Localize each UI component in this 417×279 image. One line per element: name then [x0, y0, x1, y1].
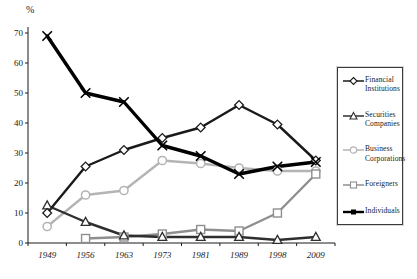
legend-item-business-corporations: Business Corporations — [342, 144, 399, 163]
legend-box: Financial InstitutionsSecurities Compani… — [337, 67, 403, 225]
series-business-corporations-circle-marker-icon — [273, 167, 281, 175]
legend-key-business-corporations — [342, 145, 365, 155]
series-business-corporations-circle-marker-icon — [81, 191, 89, 199]
legend-label-individuals: Individuals — [365, 206, 400, 215]
y-axis-tick-label: 60 — [14, 58, 24, 68]
y-axis-tick-label: 40 — [14, 118, 24, 128]
y-axis-tick-label: 50 — [14, 88, 24, 98]
x-axis-tick-label: 1949 — [38, 250, 57, 260]
x-axis-tick-label: 1956 — [77, 250, 96, 260]
legend-item-foreigners: Foreigners — [342, 179, 399, 190]
series-line-individuals — [47, 36, 316, 174]
x-axis-tick-label: 1989 — [230, 250, 249, 260]
y-axis-tick-label: 30 — [14, 148, 24, 158]
filled-square-marker-icon — [351, 210, 356, 215]
legend-key-securities-companies — [342, 111, 365, 121]
series-foreigners-square-marker-icon — [312, 170, 320, 178]
y-axis-tick-label: 20 — [14, 178, 24, 188]
legend-item-securities-companies: Securities Companies — [342, 110, 399, 129]
legend-key-foreigners — [342, 180, 365, 190]
series-business-corporations-circle-marker-icon — [120, 186, 128, 194]
series-foreigners-square-marker-icon — [82, 235, 90, 243]
x-axis-tick-label: 1963 — [115, 250, 134, 260]
y-axis-tick-label: 0 — [19, 238, 24, 248]
legend-key-individuals — [342, 207, 365, 217]
legend-item-financial-institutions: Financial Institutions — [342, 75, 399, 94]
y-axis-tick-label: 10 — [14, 208, 24, 218]
series-business-corporations-circle-marker-icon — [43, 222, 51, 230]
series-foreigners-square-marker-icon — [273, 209, 281, 217]
chart-container: % 01020304050607019491956196319731981198… — [0, 0, 417, 279]
x-axis-tick-label: 2009 — [307, 250, 326, 260]
legend-item-individuals: Individuals — [342, 206, 399, 217]
legend-label-financial-institutions: Financial Institutions — [365, 75, 400, 94]
circle-marker-icon — [350, 147, 356, 153]
legend-key-financial-institutions — [342, 76, 365, 86]
legend-label-securities-companies: Securities Companies — [365, 110, 400, 129]
x-axis-tick-label: 1981 — [192, 250, 210, 260]
series-business-corporations-circle-marker-icon — [197, 159, 205, 167]
y-axis-tick-label: 70 — [14, 28, 24, 38]
legend-label-business-corporations: Business Corporations — [365, 144, 405, 163]
diamond-marker-icon — [350, 78, 357, 85]
legend-label-foreigners: Foreigners — [365, 179, 398, 188]
series-business-corporations-circle-marker-icon — [158, 156, 166, 164]
series-financial-institutions-diamond-marker-icon — [120, 146, 129, 155]
x-axis-tick-label: 1973 — [153, 250, 172, 260]
x-axis-tick-label: 1998 — [268, 250, 287, 260]
square-marker-icon — [351, 182, 357, 188]
